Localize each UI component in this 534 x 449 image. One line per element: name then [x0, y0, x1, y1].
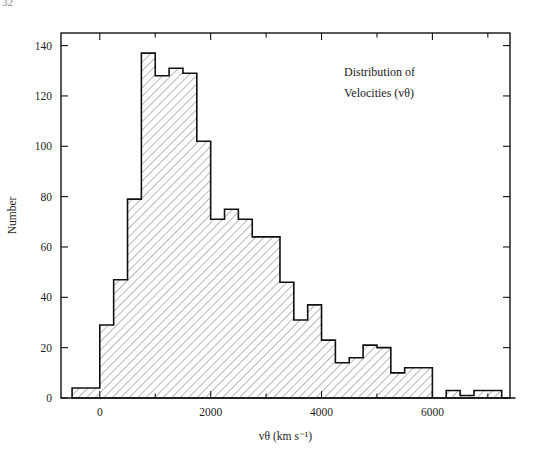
- y-tick-label: 60: [41, 241, 53, 253]
- histogram-outline: [72, 53, 515, 398]
- y-tick-label: 120: [35, 90, 53, 102]
- x-tick-label: 6000: [421, 406, 444, 418]
- x-tick-label: 4000: [310, 406, 333, 418]
- y-tick-label: 0: [46, 392, 52, 404]
- x-tick-label: 2000: [199, 406, 222, 418]
- velocity-histogram-svg: 020406080100120140 0200040006000 vθ (km …: [0, 0, 534, 449]
- y-tick-label: 100: [35, 140, 53, 152]
- y-tick-label: 40: [41, 291, 53, 303]
- histogram-bars: [72, 53, 515, 398]
- y-axis-title: Number: [6, 196, 18, 234]
- x-tick-label: 0: [97, 406, 103, 418]
- annotation-line-1: Distribution of: [344, 65, 415, 79]
- histogram-figure: 020406080100120140 0200040006000 vθ (km …: [0, 0, 534, 449]
- y-tick-label: 80: [41, 191, 53, 203]
- annotation-line-2: Velocities (vθ): [344, 86, 414, 100]
- y-tick-label: 140: [35, 40, 53, 52]
- x-axis-title: vθ (km s⁻¹): [259, 430, 312, 443]
- y-tick-label: 20: [41, 342, 53, 354]
